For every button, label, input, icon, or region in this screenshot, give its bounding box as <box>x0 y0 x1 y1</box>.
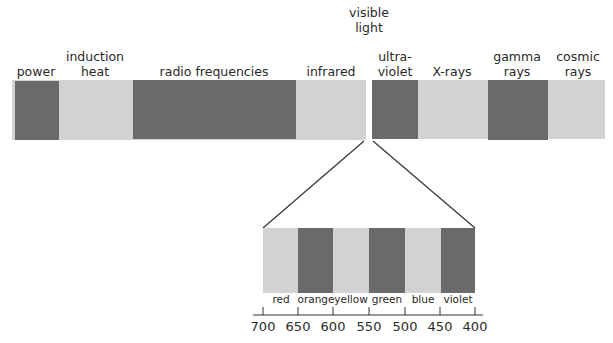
connector-line-right <box>373 141 475 228</box>
visible-band-violet <box>441 228 475 293</box>
axis-label-650: 650 <box>286 319 311 334</box>
visible-label-red: red <box>272 293 289 305</box>
visible-band-green <box>369 228 405 293</box>
visible-band-orange <box>298 228 333 293</box>
axis-label-500: 500 <box>393 319 418 334</box>
axis-label-550: 550 <box>357 319 382 334</box>
axis-label-450: 450 <box>428 319 453 334</box>
visible-label-violet: violet <box>443 293 472 305</box>
visible-band-blue <box>405 228 441 293</box>
axis-label-400: 400 <box>463 319 488 334</box>
axis-ticks <box>263 307 475 315</box>
visible-label-orange: orange <box>298 293 335 305</box>
axis-label-700: 700 <box>251 319 276 334</box>
visible-band-yellow <box>333 228 369 293</box>
visible-band-red <box>263 228 298 293</box>
visible-label-green: green <box>372 293 402 305</box>
connector-line-left <box>263 141 364 228</box>
visible-label-blue: blue <box>412 293 435 305</box>
axis-label-600: 600 <box>321 319 346 334</box>
visible-label-yellow: yellow <box>334 293 368 305</box>
